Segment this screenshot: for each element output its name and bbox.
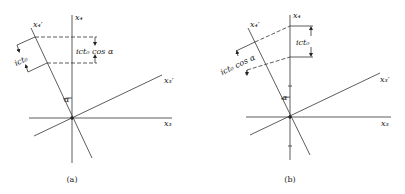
x3-prime-label-b: x₃′ — [380, 75, 390, 84]
x3-prime-axis — [34, 75, 162, 136]
alpha-label-a: α — [64, 95, 70, 104]
x4-label-b: x₄ — [293, 11, 301, 20]
figure-b — [236, 15, 391, 160]
measure-x4-prime-a: ict₀ — [13, 54, 30, 68]
x3-label-b: x₃ — [381, 119, 389, 128]
x4-prime-label-b: x₄′ — [250, 20, 260, 29]
spacetime-diagrams: x₄ x₄′ x₃′ x₃ α ict₀ cos α ict₀ (a) x₄ x… — [0, 0, 405, 194]
measure-x4-a: ict₀ cos α — [76, 47, 114, 56]
measure-x4-b: ict₀ — [296, 38, 310, 47]
x3-prime-axis — [250, 73, 380, 135]
x3-prime-label-a: x₃′ — [164, 76, 174, 85]
measure-x4-prime-b: ict₀ cos α — [219, 53, 257, 77]
x4-prime-label-a: x₄′ — [33, 20, 43, 29]
alpha-label-b: α — [282, 93, 288, 102]
figure-a — [17, 15, 172, 163]
dashed-line-upper — [255, 26, 290, 42]
caption-a: (a) — [66, 175, 77, 184]
caption-b: (b) — [284, 175, 295, 184]
x3-label-a: x₃ — [164, 119, 172, 128]
x4-label-a: x₄ — [75, 13, 83, 22]
x4-prime-axis — [248, 28, 310, 155]
